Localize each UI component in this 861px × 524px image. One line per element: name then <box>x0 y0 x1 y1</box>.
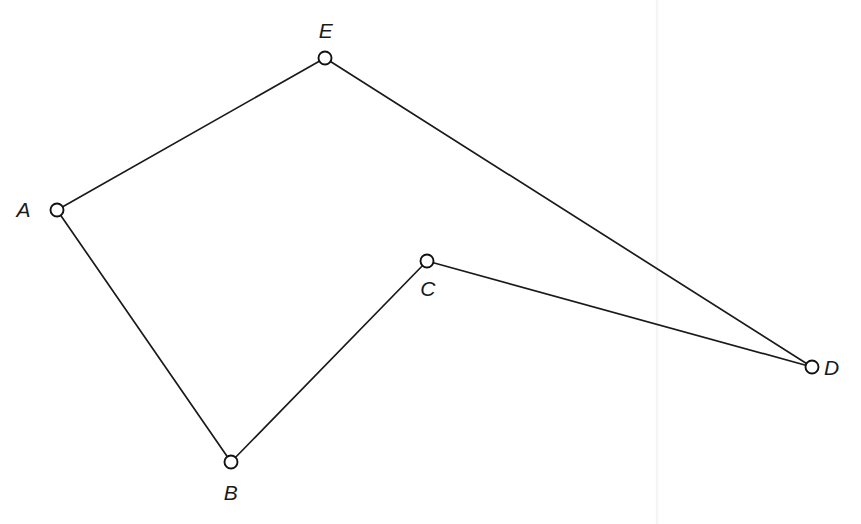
vertex-marker-group <box>51 52 819 469</box>
polygon-edge-c-b <box>231 261 427 462</box>
vertex-label-a: A <box>15 198 31 221</box>
polygon-edge-a-e <box>57 58 325 210</box>
polygon-edge-b-a <box>57 210 231 462</box>
polygon-figure: ABCDE <box>0 0 861 524</box>
polygon-canvas: ABCDE <box>0 0 861 524</box>
vertex-label-c: C <box>420 277 436 300</box>
vertex-label-d: D <box>824 356 840 379</box>
vertex-marker-d[interactable] <box>806 361 819 374</box>
polygon-edge-group <box>57 58 812 462</box>
polygon-edge-e-d <box>325 58 812 367</box>
vertex-marker-b[interactable] <box>225 456 238 469</box>
polygon-edge-d-c <box>427 261 812 367</box>
vertex-marker-e[interactable] <box>319 52 332 65</box>
vertex-marker-a[interactable] <box>51 204 64 217</box>
vertex-label-e: E <box>319 19 334 42</box>
vertex-label-b: B <box>224 481 238 504</box>
vertex-marker-c[interactable] <box>421 255 434 268</box>
